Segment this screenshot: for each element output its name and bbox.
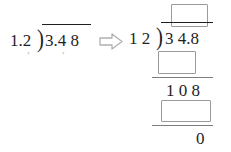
worksheet-canvas: 1.2 ) 3.4 8 , , 1 2 ) 3 4.8 1 0 8 0 xyxy=(0,0,231,152)
intermediate-remainder: 1 0 8 xyxy=(166,82,200,99)
subtraction-rule-2 xyxy=(152,125,213,126)
right-dividend: 3 4.8 xyxy=(165,30,199,47)
right-vinculum-rule xyxy=(161,22,213,23)
left-vinculum-rule xyxy=(42,24,91,25)
final-remainder: 0 xyxy=(196,130,205,147)
right-divisor: 1 2 xyxy=(129,30,150,47)
decimal-shift-caret-divisor-icon: , xyxy=(27,44,30,55)
division-bracket-icon: ) xyxy=(37,26,44,52)
subtraction-rule-1 xyxy=(152,77,213,78)
quotient-answer-box[interactable] xyxy=(171,4,208,27)
right-long-division-workspace: 1 2 ) 3 4.8 1 0 8 0 xyxy=(125,0,231,152)
decimal-shift-caret-dividend-icon: , xyxy=(62,44,65,55)
partial-product-answer-box-2[interactable] xyxy=(161,100,211,122)
division-bracket-icon: ) xyxy=(156,24,163,50)
left-division-expression: 1.2 ) 3.4 8 , , xyxy=(0,0,100,152)
arrow-right-icon xyxy=(99,33,123,50)
partial-product-answer-box-1[interactable] xyxy=(158,51,196,74)
